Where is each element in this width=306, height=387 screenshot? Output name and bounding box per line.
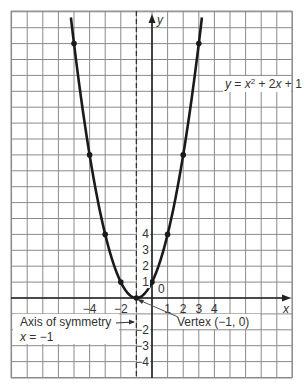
- y-axis-label: y: [156, 13, 164, 27]
- arrowhead-icon: [129, 320, 135, 325]
- y-axis-arrow-icon: [149, 14, 156, 23]
- data-point: [180, 152, 186, 158]
- y-tick-label: 2: [142, 259, 149, 273]
- data-point: [149, 279, 155, 285]
- x-tick-label: 4: [211, 302, 218, 316]
- x-axis-label: x: [282, 302, 290, 316]
- x-tick-label: −4: [83, 302, 97, 316]
- data-point: [118, 279, 124, 285]
- vertex-arrow: [139, 300, 178, 317]
- data-point: [87, 152, 93, 158]
- x-tick-label: −2: [114, 302, 128, 316]
- data-point: [102, 232, 108, 238]
- vertex-label: Vertex (−1, 0): [177, 315, 249, 329]
- data-point: [71, 41, 77, 47]
- axis-of-symmetry-equation: x = −1: [19, 330, 54, 344]
- x-tick-label: 3: [195, 302, 202, 316]
- axis-of-symmetry-label: Axis of symmetry: [20, 315, 111, 329]
- x-tick-label: 2: [180, 302, 187, 316]
- equation-text: y = x2 + 2x + 1: [224, 77, 302, 92]
- y-tick-label: −2: [135, 323, 149, 337]
- arrowhead-icon: [137, 299, 144, 304]
- y-tick-label: 4: [142, 227, 149, 241]
- x-axis-arrow-icon: [282, 295, 291, 302]
- y-tick-label: −3: [135, 339, 149, 353]
- origin-label: 0: [158, 282, 165, 296]
- data-point: [196, 41, 202, 47]
- data-point: [165, 232, 171, 238]
- y-tick-label: 3: [142, 243, 149, 257]
- parabola-graph: xy −4−212344321−2−3−40 y y = x2 + 2x + 1…: [0, 0, 306, 387]
- y-tick-label: −4: [135, 355, 149, 369]
- y-tick-label: 1: [142, 275, 149, 289]
